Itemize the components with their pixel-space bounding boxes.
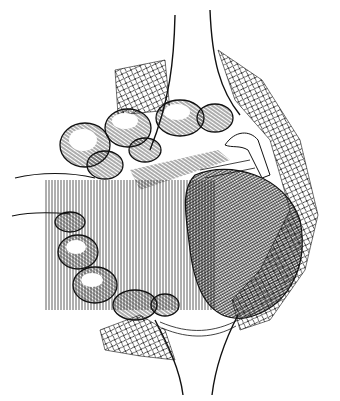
anatomical-illustration [0,0,340,401]
